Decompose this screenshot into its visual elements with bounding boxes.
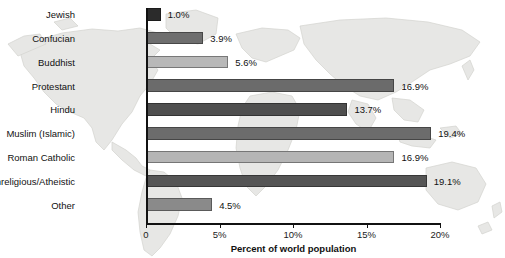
x-axis-tick (220, 223, 221, 228)
x-axis-tick (146, 223, 147, 228)
x-axis-tick-label: 15% (357, 229, 376, 240)
bar[interactable] (146, 32, 203, 45)
bar[interactable] (146, 8, 161, 21)
category-label: Protestant (0, 81, 75, 93)
bar[interactable] (146, 175, 427, 188)
bar[interactable] (146, 127, 431, 140)
bar-value-label: 3.9% (210, 33, 232, 45)
bar-row: Other4.5% (146, 198, 440, 222)
bar[interactable] (146, 151, 394, 164)
bar-value-label: 4.5% (219, 200, 241, 212)
category-label: Hindu (0, 104, 75, 116)
category-label: Jewish (0, 9, 75, 21)
bar-row: Nonreligious/Atheistic19.1% (146, 175, 440, 199)
x-axis-tick (440, 223, 441, 228)
x-axis-tick-label: 10% (283, 229, 302, 240)
bar-row: Roman Catholic16.9% (146, 151, 440, 175)
bar-value-label: 13.7% (354, 104, 381, 116)
bar-value-label: 19.1% (434, 176, 461, 188)
bar-row: Buddhist5.6% (146, 56, 440, 80)
bars-container: Jewish1.0%Confucian3.9%Buddhist5.6%Prote… (146, 8, 440, 221)
category-label: Buddhist (0, 57, 75, 69)
religion-population-bar-chart: 05%10%15%20% Jewish1.0%Confucian3.9%Budd… (0, 0, 505, 258)
x-axis-tick-label: 0 (143, 229, 148, 240)
y-axis-line (146, 8, 148, 224)
bar-value-label: 16.9% (401, 81, 428, 93)
x-axis-tick-label: 20% (430, 229, 449, 240)
category-label: Muslim (Islamic) (0, 128, 75, 140)
bar-value-label: 5.6% (235, 57, 257, 69)
category-label: Nonreligious/Atheistic (0, 176, 75, 188)
bar-row: Confucian3.9% (146, 32, 440, 56)
bar[interactable] (146, 103, 347, 116)
x-axis-title: Percent of world population (146, 243, 441, 254)
x-axis-tick (367, 223, 368, 228)
bar[interactable] (146, 56, 228, 69)
category-label: Confucian (0, 33, 75, 45)
bar-row: Hindu13.7% (146, 103, 440, 127)
bar-row: Muslim (Islamic)19.4% (146, 127, 440, 151)
bar-row: Protestant16.9% (146, 79, 440, 103)
category-label: Other (0, 200, 75, 212)
bar-row: Jewish1.0% (146, 8, 440, 32)
category-label: Roman Catholic (0, 152, 75, 164)
bar[interactable] (146, 79, 394, 92)
bar-value-label: 16.9% (401, 152, 428, 164)
x-axis-tick-label: 5% (213, 229, 227, 240)
x-axis-tick (293, 223, 294, 228)
bar-value-label: 1.0% (168, 9, 190, 21)
bar-value-label: 19.4% (438, 128, 465, 140)
bar[interactable] (146, 198, 212, 211)
